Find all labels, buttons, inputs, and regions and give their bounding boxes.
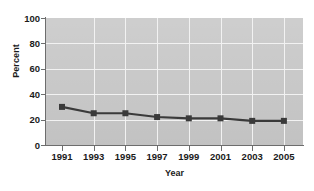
- y-tick-label: 40: [14, 90, 40, 100]
- series-markers: [59, 104, 287, 124]
- data-point-marker: [281, 118, 287, 124]
- y-tick-label: 0: [14, 141, 40, 151]
- data-point-marker: [186, 115, 192, 121]
- data-point-marker: [218, 115, 224, 121]
- y-tick-label: 60: [14, 64, 40, 74]
- y-tick-label: 20: [14, 115, 40, 125]
- data-point-marker: [59, 104, 65, 110]
- data-point-marker: [249, 118, 255, 124]
- data-series-layer: [46, 18, 303, 145]
- data-point-marker: [122, 110, 128, 116]
- x-tick-label: 2005: [264, 152, 304, 162]
- data-point-marker: [91, 110, 97, 116]
- y-axis-tick-labels: 100 80 60 40 20 0: [14, 0, 40, 191]
- x-axis-spine: [45, 145, 304, 146]
- y-tick-label: 100: [14, 14, 40, 24]
- y-tick-label: 80: [14, 39, 40, 49]
- x-axis-title: Year: [46, 168, 303, 178]
- data-point-marker: [154, 114, 160, 120]
- line-chart: Percent 100 80 60 40 20 0: [0, 0, 314, 191]
